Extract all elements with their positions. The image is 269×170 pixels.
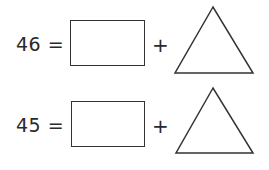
answer-triangle-icon[interactable] (0, 82, 269, 162)
equation-row-2: 45 = + (0, 82, 269, 162)
answer-triangle-icon[interactable] (0, 0, 269, 80)
equation-row-1: 46 = + (0, 0, 269, 80)
